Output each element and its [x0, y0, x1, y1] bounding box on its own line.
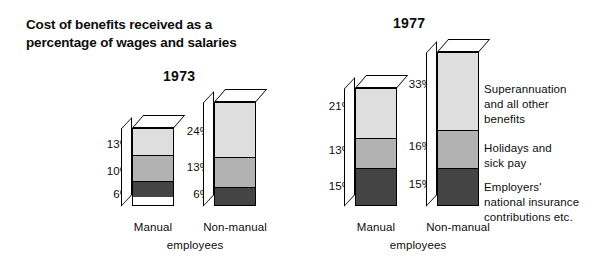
- bar-front-face: [132, 128, 174, 206]
- segment-holidays: [215, 158, 255, 189]
- segment-superannuation: [438, 53, 478, 131]
- title-line-2: percentage of wages and salaries: [26, 34, 326, 52]
- bar-front-face: [355, 88, 397, 206]
- legend-item-holidays: Holidays and sick pay: [484, 141, 552, 171]
- bar-left-face: [344, 77, 355, 207]
- segment-holidays: [133, 156, 173, 182]
- legend-label-line-1: Holidays and: [484, 141, 552, 156]
- legend-label-line-1: Employers': [484, 180, 579, 195]
- bar-top-face: [437, 39, 490, 52]
- bar-front-face: [214, 102, 256, 206]
- bar-front-face: [437, 52, 479, 206]
- legend-label-line-3: benefits: [484, 112, 567, 127]
- legend-label-line-2: and all other: [484, 97, 567, 112]
- legend-label-line-1: Superannuation: [484, 82, 567, 97]
- segment-holidays: [438, 131, 478, 169]
- bar-top-face: [214, 89, 267, 102]
- legend-label-line-2: sick pay: [484, 156, 552, 171]
- legend-item-superannuation: Superannuation and all other benefits: [484, 82, 567, 127]
- bar-left-face: [203, 91, 214, 207]
- segment-national-insurance: [438, 169, 478, 205]
- segment-national-insurance: [215, 188, 255, 205]
- bar-1973-manual: [132, 128, 174, 206]
- category-label-1973-non-manual: Non-manual: [192, 221, 278, 233]
- segment-superannuation: [215, 103, 255, 158]
- bar-1977-manual: [355, 88, 397, 206]
- legend-label-line-3: contributions etc.: [484, 210, 579, 225]
- category-label-1977-manual: Manual: [335, 221, 417, 233]
- legend-item-national-insurance: Employers' national insurance contributi…: [484, 180, 579, 225]
- segment-national-insurance: [356, 169, 396, 205]
- bar-1977-non-manual: [437, 52, 479, 206]
- legend-label-line-2: national insurance: [484, 195, 579, 210]
- group-heading-1977: 1977: [393, 15, 425, 31]
- group-heading-1973: 1973: [163, 68, 195, 84]
- bar-left-face: [121, 117, 132, 207]
- group-sublabel-1973: employees: [150, 239, 240, 251]
- group-sublabel-1977: employees: [373, 239, 463, 251]
- segment-holidays: [356, 139, 396, 170]
- segment-superannuation: [356, 89, 396, 139]
- page-title: Cost of benefits received as a percentag…: [26, 16, 326, 51]
- segment-superannuation: [133, 129, 173, 156]
- title-line-1: Cost of benefits received as a: [26, 16, 326, 34]
- category-label-1973-manual: Manual: [112, 221, 194, 233]
- bar-1973-non-manual: [214, 102, 256, 206]
- segment-national-insurance: [133, 182, 173, 198]
- bar-left-face: [426, 41, 437, 207]
